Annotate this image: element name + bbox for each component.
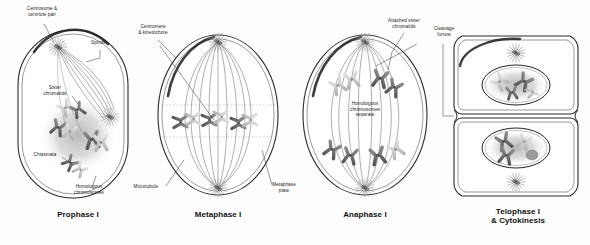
- panel-prophase-1-figure: [18, 24, 128, 198]
- spindle-pole-bottom: [209, 179, 227, 197]
- spindle-pole-top: [356, 33, 374, 51]
- panel-telophase-1-figure: [443, 36, 578, 196]
- telophase-aster-upper: [507, 44, 525, 62]
- meiosis-diagram: Centrosome & centriole pair Spindle Sist…: [0, 0, 590, 245]
- diagram-canvas: [0, 0, 590, 245]
- panel-metaphase-1-figure: [158, 33, 278, 197]
- telophase-aster-lower: [507, 173, 525, 191]
- centrosome-aster-upper: [49, 38, 67, 56]
- panel-anaphase-1-figure: [303, 33, 427, 197]
- spindle-pole-top: [209, 33, 227, 51]
- centrosome-aster-lower: [101, 108, 119, 126]
- spindle-pole-bottom: [356, 179, 374, 197]
